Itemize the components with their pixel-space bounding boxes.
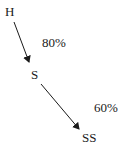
arrow-s-to-ss-icon xyxy=(41,84,79,129)
arrow-h-to-s-icon xyxy=(14,22,29,62)
arrows-layer xyxy=(0,0,126,151)
